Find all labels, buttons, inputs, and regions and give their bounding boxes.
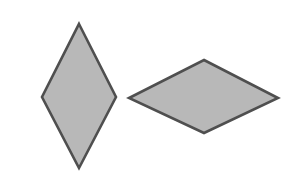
figure-canvas: Two gray rhombus shapes <box>0 0 300 182</box>
shapes-figure: Two gray rhombus shapes <box>0 0 300 182</box>
